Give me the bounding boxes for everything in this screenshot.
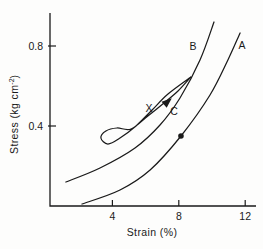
x-axis-title-text: Strain (%) [127,226,178,238]
data-point-dot [178,133,184,139]
x-tick-label: 8 [176,210,182,222]
y-tick-label: 0.8 [28,40,43,52]
annotation-label-X: X [145,102,152,114]
stress-strain-chart: 48120.40.8BAXC [0,0,263,249]
x-axis-title: Strain (%) [72,226,232,238]
y-axis-title-close: ) [8,75,20,79]
annotation-label-A: A [239,39,246,51]
x-tick-label: 4 [109,210,115,222]
y-axis-title-exponent: -2 [8,78,15,84]
y-axis-title: Stress (kg cm-2) [8,34,21,194]
annotation-label-B: B [190,40,197,52]
y-tick-label: 0.4 [28,120,43,132]
curve-A-path [82,33,240,204]
annotation-label-C: C [170,105,178,117]
x-tick-label: 12 [239,210,251,222]
stress-strain-figure: 48120.40.8BAXC Stress (kg cm-2) Strain (… [0,0,263,249]
y-axis-title-main: Stress (kg cm [8,85,20,154]
